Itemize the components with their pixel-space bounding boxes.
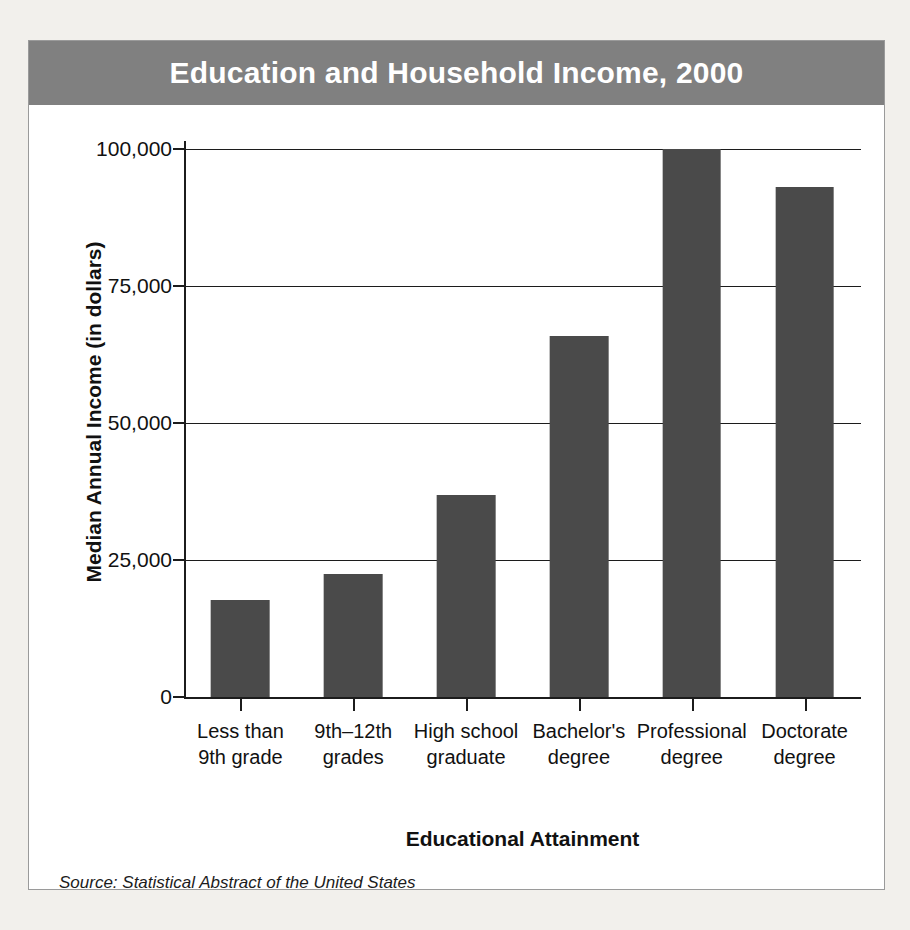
chart-body: Median Annual Income (in dollars) 025,00…: [29, 105, 884, 889]
x-tick-mark: [240, 697, 242, 711]
chart-figure: Education and Household Income, 2000 Med…: [28, 40, 885, 890]
gridline: [184, 286, 861, 287]
x-tick-mark: [466, 697, 468, 711]
x-tick-mark: [692, 697, 694, 711]
x-tick-mark: [579, 697, 581, 711]
y-tick-mark: [173, 696, 184, 698]
x-axis-label-line: degree: [730, 745, 880, 771]
y-tick-label: 25,000: [108, 548, 172, 572]
x-axis-title: Educational Attainment: [184, 827, 861, 851]
y-axis-title: Median Annual Income (in dollars): [82, 162, 106, 662]
y-axis-line: [184, 141, 186, 697]
y-tick-mark: [173, 285, 184, 287]
gridline: [184, 560, 861, 561]
gridline: [184, 423, 861, 424]
chart-title: Education and Household Income, 2000: [170, 56, 744, 90]
x-axis-label-line: Doctorate: [730, 719, 880, 745]
bar: [662, 149, 721, 697]
y-tick-label: 100,000: [96, 137, 172, 161]
gridline: [184, 697, 861, 699]
chart-title-band: Education and Household Income, 2000: [29, 41, 884, 105]
bar: [437, 495, 496, 697]
y-tick-mark: [173, 148, 184, 150]
bar: [775, 187, 834, 697]
y-tick-label: 50,000: [108, 411, 172, 435]
x-tick-mark: [353, 697, 355, 711]
y-tick-mark: [173, 422, 184, 424]
y-tick-label: 75,000: [108, 274, 172, 298]
plot-area: 025,00050,00075,000100,000 Less than9th …: [184, 149, 861, 697]
source-note: Source: Statistical Abstract of the Unit…: [59, 873, 416, 893]
x-tick-mark: [805, 697, 807, 711]
bar: [550, 336, 609, 697]
y-tick-mark: [173, 559, 184, 561]
y-tick-label: 0: [160, 685, 172, 709]
x-axis-label: Doctoratedegree: [730, 719, 880, 770]
bar: [211, 600, 270, 697]
bar: [324, 574, 383, 697]
gridline: [184, 149, 861, 150]
